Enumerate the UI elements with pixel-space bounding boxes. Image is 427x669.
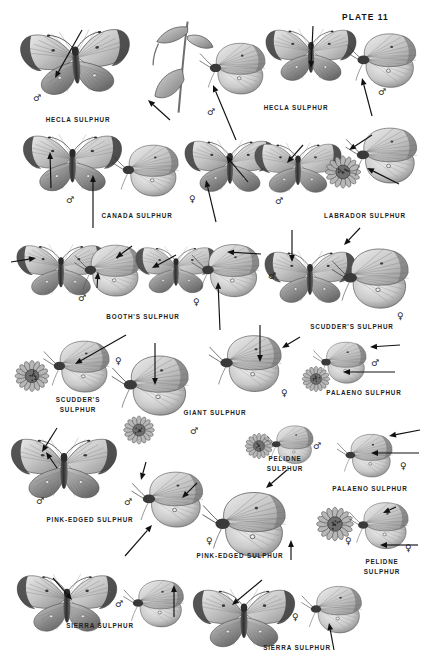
species-label-sierra-2: SIERRA SULPHUR xyxy=(263,643,331,653)
species-label-pelidne-1: PELIDNESULPHUR xyxy=(250,454,320,474)
species-label-giant: GIANT SULPHUR xyxy=(184,408,247,418)
species-label-scudders-2: SCUDDER'SSULPHUR xyxy=(43,395,113,415)
female-symbol: ♀ xyxy=(405,544,412,553)
species-label-sierra-1: SIERRA SULPHUR xyxy=(66,621,134,631)
leader-arrow xyxy=(370,344,400,350)
species-label-line: HECLA SULPHUR xyxy=(264,103,329,113)
species-label-labrador: LABRADOR SULPHUR xyxy=(324,211,406,221)
species-label-line: LABRADOR SULPHUR xyxy=(324,211,406,221)
species-label-pink-edged-1: PINK-EDGED SULPHUR xyxy=(46,515,133,525)
species-label-line: SCUDDER'S xyxy=(43,395,113,405)
male-symbol: ♂ xyxy=(371,359,379,368)
species-label-line: PELIDNE xyxy=(347,557,417,567)
species-label-hecla-1: HECLA SULPHUR xyxy=(46,115,111,125)
species-label-line: SIERRA SULPHUR xyxy=(66,621,134,631)
species-label-palaeno-2: PALAENO SULPHUR xyxy=(332,484,407,494)
species-label-line: PELIDNE xyxy=(250,454,320,464)
species-label-line: PALAENO SULPHUR xyxy=(326,388,401,398)
species-label-hecla-2: HECLA SULPHUR xyxy=(264,103,329,113)
specimen-spread xyxy=(15,18,136,104)
male-symbol: ♂ xyxy=(33,94,41,103)
female-symbol: ♀ xyxy=(345,537,352,546)
species-label-line: SULPHUR xyxy=(347,567,417,577)
species-label-line: PINK-EDGED SULPHUR xyxy=(196,551,283,561)
plate-title: PLATE 11 xyxy=(342,12,389,22)
female-symbol: ♀ xyxy=(292,613,299,622)
species-label-pink-edged-2: PINK-EDGED SULPHUR xyxy=(196,551,283,561)
species-label-line: PINK-EDGED SULPHUR xyxy=(46,515,133,525)
specimen-side xyxy=(108,140,186,202)
male-symbol: ♂ xyxy=(36,497,44,506)
species-label-scudders-1: SCUDDER'S SULPHUR xyxy=(310,322,393,332)
specimen-side xyxy=(330,242,414,316)
male-symbol: ♂ xyxy=(115,600,123,609)
male-symbol: ♂ xyxy=(275,197,283,206)
species-label-line: BOOTH'S SULPHUR xyxy=(106,312,179,322)
male-symbol: ♂ xyxy=(66,196,74,205)
specimen-side xyxy=(345,28,421,94)
male-symbol: ♂ xyxy=(190,427,198,436)
species-label-line: SULPHUR xyxy=(43,405,113,415)
male-symbol: ♂ xyxy=(378,88,386,97)
female-symbol: ♀ xyxy=(397,312,404,321)
female-symbol: ♀ xyxy=(115,357,122,366)
species-label-booths: BOOTH'S SULPHUR xyxy=(106,312,179,322)
male-symbol: ♂ xyxy=(78,294,86,303)
species-label-line: CANADA SULPHUR xyxy=(101,211,172,221)
species-label-pelidne-2: PELIDNESULPHUR xyxy=(347,557,417,577)
male-symbol: ♂ xyxy=(313,442,321,451)
specimen-side xyxy=(200,330,294,398)
female-symbol: ♀ xyxy=(400,462,407,471)
female-symbol: ♀ xyxy=(189,195,196,204)
male-symbol: ♂ xyxy=(268,272,276,281)
female-symbol: ♀ xyxy=(281,389,288,398)
specimen-side xyxy=(40,336,116,398)
specimen-side xyxy=(344,122,422,190)
specimen-side xyxy=(330,430,402,482)
species-label-canada: CANADA SULPHUR xyxy=(101,211,172,221)
male-symbol: ♂ xyxy=(124,498,132,507)
species-label-line: SCUDDER'S SULPHUR xyxy=(310,322,393,332)
female-symbol: ♀ xyxy=(193,298,200,307)
species-label-line: HECLA SULPHUR xyxy=(46,115,111,125)
species-label-line: PALAENO SULPHUR xyxy=(332,484,407,494)
species-label-line: GIANT SULPHUR xyxy=(184,408,247,418)
species-label-line: SULPHUR xyxy=(250,464,320,474)
butterfly-plate: ♂♂♂♂♀♂♂♀♂♀♀♂♀♂♂♀♂♂♀♀♀♂♀ HECLA SULPHURHEC… xyxy=(0,0,427,669)
specimen-side xyxy=(190,238,264,304)
specimen-side xyxy=(300,574,366,646)
male-symbol: ♂ xyxy=(207,108,215,117)
specimen-side xyxy=(198,38,270,100)
female-symbol: ♀ xyxy=(206,537,213,546)
species-label-palaeno-1: PALAENO SULPHUR xyxy=(326,388,401,398)
species-label-line: SIERRA SULPHUR xyxy=(263,643,331,653)
specimen-spread xyxy=(8,428,120,506)
